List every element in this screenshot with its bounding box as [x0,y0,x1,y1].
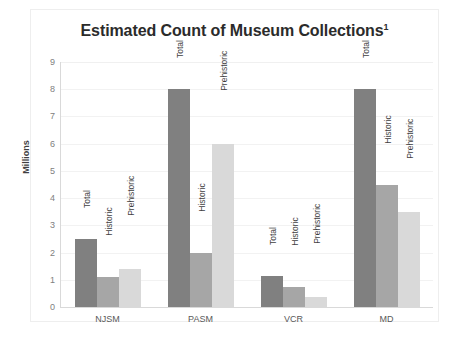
x-axis-category-label: VCR [247,314,340,324]
bar-group: TotalHistoricPrehistoric [168,62,234,307]
bar-value-label: Total [82,190,92,208]
bar[interactable]: Total [261,62,283,307]
bar-fill [212,144,234,307]
bar-fill [305,297,327,307]
chart-title: Estimated Count of Museum Collections1 [30,22,439,40]
bar-value-label: Prehistoric [405,118,415,158]
bar[interactable]: Historic [190,62,212,307]
x-axis-category-label: PASM [154,314,247,324]
bar-value-label: Total [268,227,278,245]
bar-fill [261,276,283,307]
bar-group-bars: TotalHistoricPrehistoric [354,62,420,307]
bar-fill [97,277,119,307]
bar-group-bars: TotalHistoricPrehistoric [261,62,327,307]
bar-group-bars: TotalHistoricPrehistoric [168,62,234,307]
bar-value-label: Total [361,40,371,58]
bar-value-label: Total [175,40,185,58]
bar-fill [354,89,376,307]
y-axis-tick-label: 6 [25,139,55,149]
bar-value-label: Prehistoric [126,176,136,216]
bar-group-bars: TotalHistoricPrehistoric [75,62,141,307]
bar[interactable]: Prehistoric [305,62,327,307]
bar-fill [119,269,141,307]
bar-value-label: Historic [383,115,393,143]
y-axis-tick-label: 9 [25,57,55,67]
bar[interactable]: Total [75,62,97,307]
bar[interactable]: Total [354,62,376,307]
x-axis-category-label: MD [340,314,433,324]
chart-title-footnote-marker: 1 [384,22,389,32]
bar-value-label: Historic [290,217,300,245]
y-axis-tick-label: 7 [25,111,55,121]
bar-fill [283,287,305,307]
bar-fill [190,253,212,307]
x-axis-category-label: NJSM [61,314,154,324]
bar[interactable]: Total [168,62,190,307]
y-axis-ticks: 0123456789 [22,62,55,307]
bar[interactable]: Historic [283,62,305,307]
bar-group: TotalHistoricPrehistoric [261,62,327,307]
y-axis-tick-label: 4 [25,193,55,203]
bar[interactable]: Prehistoric [212,62,234,307]
bar-fill [398,212,420,307]
y-axis-tick-label: 1 [25,275,55,285]
bar-value-label: Prehistoric [312,204,322,244]
bar-group: TotalHistoricPrehistoric [75,62,141,307]
bar[interactable]: Prehistoric [398,62,420,307]
bar-value-label: Historic [104,207,114,235]
bar-value-label: Historic [197,183,207,211]
bar[interactable]: Prehistoric [119,62,141,307]
bar-fill [168,89,190,307]
bar[interactable]: Historic [97,62,119,307]
y-axis-tick-label: 8 [25,84,55,94]
bar[interactable]: Historic [376,62,398,307]
x-axis-line [60,307,433,308]
y-axis-tick-label: 0 [25,302,55,312]
bar-group: TotalHistoricPrehistoric [354,62,420,307]
plot-area: TotalHistoricPrehistoricNJSMTotalHistori… [61,62,433,307]
bar-fill [376,185,398,308]
y-axis-tick-label: 5 [25,166,55,176]
bar-value-label: Prehistoric [219,50,229,90]
chart-title-text: Estimated Count of Museum Collections [81,22,384,39]
y-axis-tick-label: 3 [25,220,55,230]
bar-fill [75,239,97,307]
y-axis-tick-label: 2 [25,248,55,258]
